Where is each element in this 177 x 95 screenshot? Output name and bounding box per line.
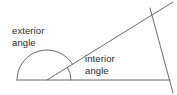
geometry-diagram: exterior angle interior angle bbox=[0, 0, 177, 95]
interior-angle-arc bbox=[67, 67, 71, 80]
exterior-angle-label-line1: exterior bbox=[12, 25, 44, 37]
interior-angle-label-line1: interior bbox=[85, 53, 115, 65]
exterior-angle-arc bbox=[17, 50, 73, 80]
exterior-angle-label: exterior angle bbox=[12, 25, 44, 48]
interior-angle-label: interior angle bbox=[85, 53, 115, 76]
exterior-angle-label-line2: angle bbox=[12, 37, 44, 49]
interior-angle-label-line2: angle bbox=[85, 65, 115, 77]
